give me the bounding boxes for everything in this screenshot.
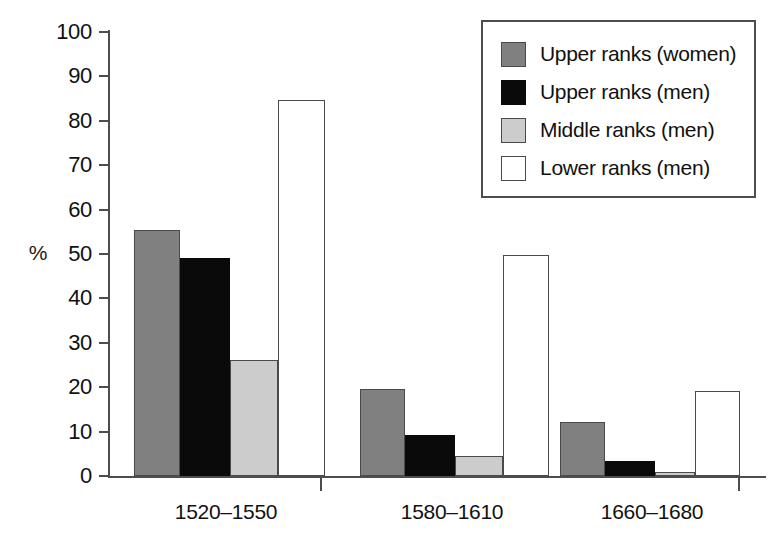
- legend-item[interactable]: Lower ranks (men): [501, 149, 754, 187]
- y-axis-tick: [99, 431, 109, 433]
- y-axis-tick: [99, 297, 109, 299]
- y-axis-tick-label: 10: [40, 421, 92, 443]
- x-axis-separator-tick: [320, 476, 322, 491]
- legend-item[interactable]: Middle ranks (men): [501, 111, 754, 149]
- legend-item-label: Upper ranks (women): [540, 42, 736, 66]
- legend: Upper ranks (women)Upper ranks (men)Midd…: [481, 20, 756, 198]
- x-axis-line: [108, 476, 766, 478]
- y-axis-tick: [99, 386, 109, 388]
- bar: [278, 100, 325, 476]
- x-axis-group-label: 1660–1680: [542, 500, 762, 524]
- y-axis-tick-label: 70: [40, 154, 92, 176]
- bar: [360, 389, 405, 476]
- legend-item-label: Middle ranks (men): [540, 118, 714, 142]
- y-axis-tick-label: 40: [40, 287, 92, 309]
- x-axis-group-label: 1580–1610: [342, 500, 562, 524]
- y-axis-tick: [99, 253, 109, 255]
- legend-item[interactable]: Upper ranks (women): [501, 35, 754, 73]
- bar: [605, 461, 655, 476]
- bar: [405, 435, 455, 476]
- y-axis-tick: [99, 209, 109, 211]
- bar: [560, 422, 605, 476]
- x-axis-separator-tick: [738, 476, 740, 491]
- legend-swatch-icon: [501, 80, 526, 105]
- y-axis-tick-label: 30: [40, 332, 92, 354]
- legend-item[interactable]: Upper ranks (men): [501, 73, 754, 111]
- y-axis-tick: [99, 164, 109, 166]
- x-axis-group-label: 1520–1550: [116, 500, 336, 524]
- bar: [134, 230, 180, 476]
- y-axis-tick: [99, 31, 109, 33]
- bar: [230, 360, 278, 476]
- legend-swatch-icon: [501, 42, 526, 67]
- y-axis-tick-label: 50: [40, 243, 92, 265]
- y-axis-tick-label: 20: [40, 376, 92, 398]
- legend-item-label: Upper ranks (men): [540, 80, 710, 104]
- bar: [695, 391, 740, 476]
- y-axis-tick-label: 80: [40, 110, 92, 132]
- y-axis-tick-label: 90: [40, 65, 92, 87]
- bar: [455, 456, 503, 476]
- legend-swatch-icon: [501, 156, 526, 181]
- y-axis-tick-label: 100: [40, 21, 92, 43]
- y-axis-tick: [99, 342, 109, 344]
- legend-item-label: Lower ranks (men): [540, 156, 710, 180]
- bar: [503, 255, 549, 476]
- y-axis-tick: [99, 75, 109, 77]
- y-axis-tick-label: 60: [40, 199, 92, 221]
- bar-chart: % 1009080706050403020100 1520–15501580–1…: [0, 0, 776, 542]
- y-axis-tick: [99, 120, 109, 122]
- legend-swatch-icon: [501, 118, 526, 143]
- bar: [180, 258, 230, 476]
- y-axis-tick-label: 0: [40, 465, 92, 487]
